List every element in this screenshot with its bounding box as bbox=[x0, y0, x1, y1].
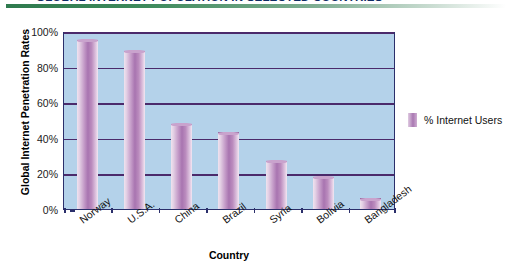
bar[interactable] bbox=[77, 40, 98, 209]
chart-banner-title: GLOBAL INTERNET POPULATION IN SELECTED C… bbox=[36, 0, 506, 3]
plot-area bbox=[63, 32, 395, 210]
bar[interactable] bbox=[171, 124, 192, 209]
y-axis-tick-label: 20% bbox=[12, 168, 58, 180]
bar-series bbox=[64, 33, 394, 209]
bar-slot bbox=[254, 33, 299, 209]
legend-label: % Internet Users bbox=[424, 114, 502, 126]
y-axis-tick-label: 100% bbox=[12, 26, 58, 38]
y-axis-tick-label: 0% bbox=[12, 204, 58, 216]
bar-chart: Global Internet Penetration Rates 0%20%4… bbox=[0, 11, 511, 266]
bar[interactable] bbox=[124, 51, 145, 209]
bar-slot bbox=[348, 33, 393, 209]
banner-divider bbox=[6, 4, 506, 8]
bar-slot bbox=[207, 33, 252, 209]
bar-slot bbox=[65, 33, 110, 209]
bar-slot bbox=[159, 33, 204, 209]
y-axis-labels: 0%20%40%60%80%100% bbox=[12, 25, 58, 217]
chart-legend: % Internet Users bbox=[408, 113, 502, 127]
legend-swatch-icon bbox=[408, 113, 417, 127]
y-axis-tick-label: 60% bbox=[12, 97, 58, 109]
bar-slot bbox=[301, 33, 346, 209]
y-axis-tick-label: 80% bbox=[12, 62, 58, 74]
x-axis-title: Country bbox=[63, 249, 395, 261]
bar-slot bbox=[112, 33, 157, 209]
bar[interactable] bbox=[266, 161, 287, 209]
bar[interactable] bbox=[218, 132, 239, 209]
header-banner: GLOBAL INTERNET POPULATION IN SELECTED C… bbox=[0, 0, 511, 11]
y-axis-tick-label: 40% bbox=[12, 133, 58, 145]
